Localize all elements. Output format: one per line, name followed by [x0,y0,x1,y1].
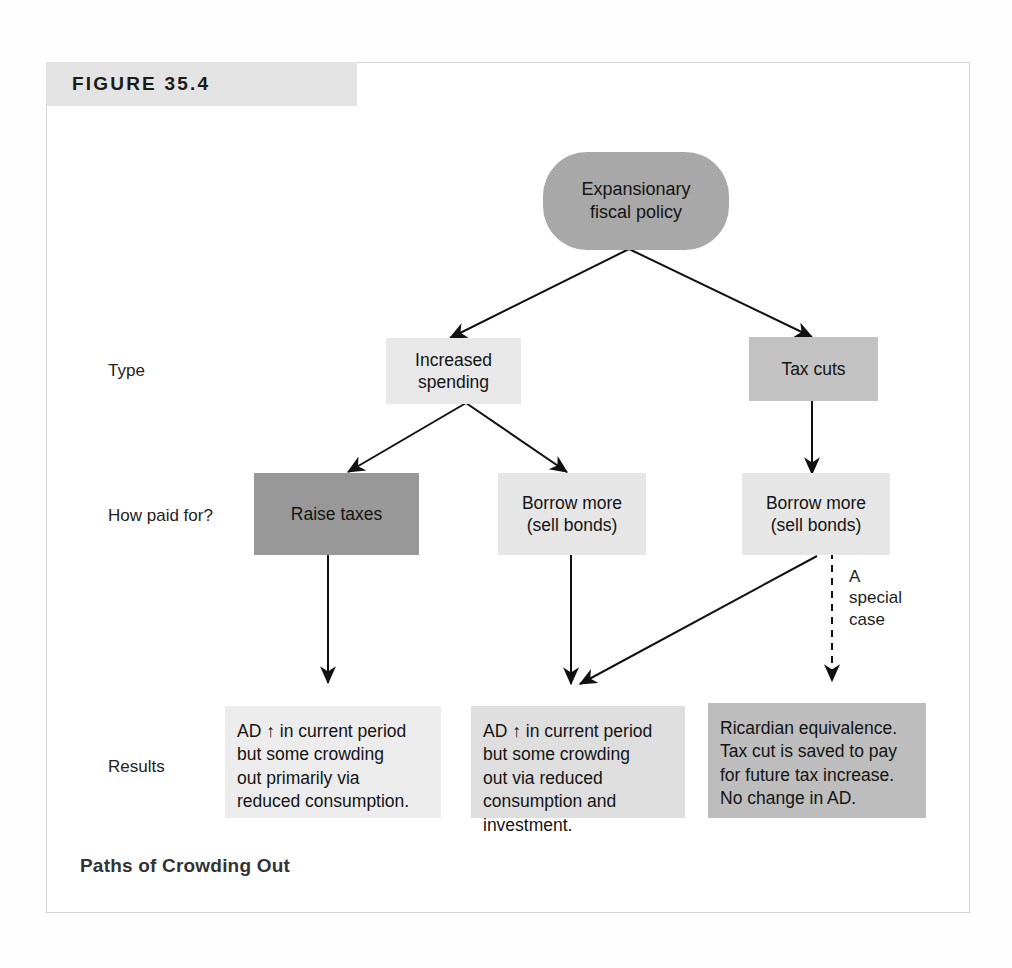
figure-number-label: Figure 35.4 [72,73,210,95]
figure-caption: Paths of Crowding Out [80,855,290,877]
node-result-ricardian[interactable]: Ricardian equivalence. Tax cut is saved … [708,703,926,818]
node-expansionary-fiscal-policy[interactable]: Expansionary fiscal policy [543,152,729,250]
node-raise-taxes[interactable]: Raise taxes [254,473,419,555]
node-borrow-more-taxcut[interactable]: Borrow more (sell bonds) [742,473,890,555]
node-borrow-more-spending[interactable]: Borrow more (sell bonds) [498,473,646,555]
row-label-type: Type [108,361,145,381]
row-label-results: Results [108,757,165,777]
node-increased-spending[interactable]: Increased spending [386,338,521,404]
node-result-raise-taxes[interactable]: AD ↑ in current period but some crowding… [225,706,441,818]
row-label-how-paid-for: How paid for? [108,506,213,526]
annotation-special-case: A special case [849,566,902,630]
figure-header-band: Figure 35.4 [46,62,357,106]
node-tax-cuts[interactable]: Tax cuts [749,337,878,401]
node-result-borrow-spending[interactable]: AD ↑ in current period but some crowding… [471,706,685,818]
